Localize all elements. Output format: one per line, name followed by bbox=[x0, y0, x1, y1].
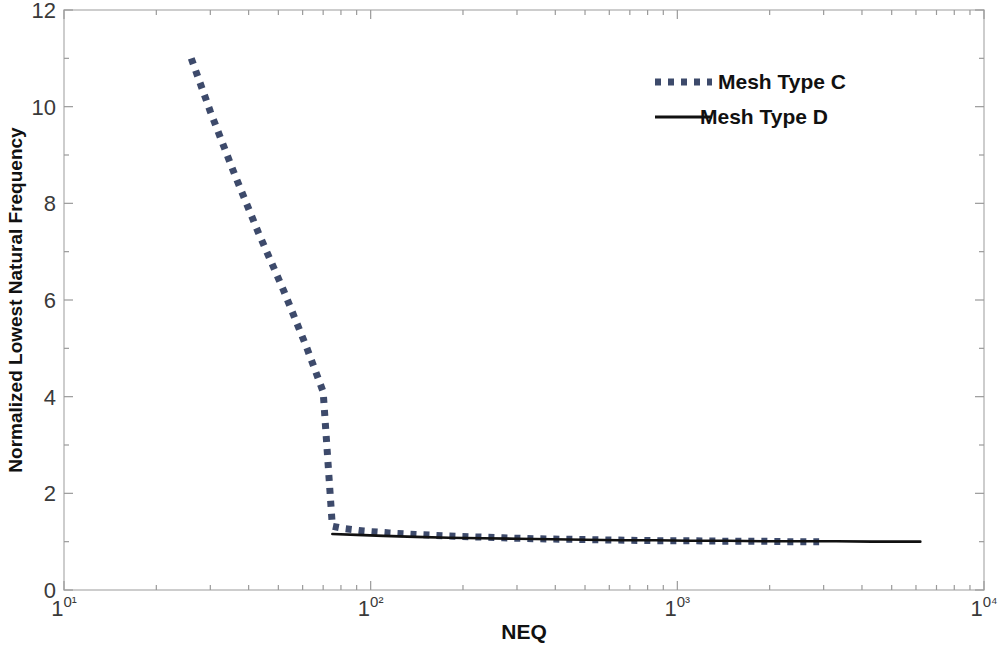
x-axis-title: NEQ bbox=[501, 620, 547, 643]
y-tick-label: 2 bbox=[44, 481, 56, 506]
y-tick-label: 8 bbox=[44, 191, 56, 216]
x-tick-label: 10³ bbox=[665, 593, 691, 621]
y-tick-label: 6 bbox=[44, 288, 56, 313]
x-tick-label: 10⁴ bbox=[970, 593, 997, 621]
x-axis-tick-labels: 10¹10²10³10⁴ bbox=[51, 593, 997, 621]
y-tick-label: 0 bbox=[44, 578, 56, 603]
series-line-mesh-type-d bbox=[332, 534, 920, 542]
y-tick-label: 12 bbox=[32, 0, 56, 23]
legend-entry-mesh-type-d[interactable]: Mesh Type D bbox=[655, 105, 828, 128]
chart-legend: Mesh Type C Mesh Type D bbox=[655, 70, 846, 128]
series-line-mesh-type-c bbox=[191, 58, 819, 541]
legend-label-mesh-type-d: Mesh Type D bbox=[700, 105, 828, 128]
legend-label-mesh-type-c: Mesh Type C bbox=[718, 70, 846, 93]
y-tick-label: 4 bbox=[44, 385, 56, 410]
chart-figure: 10¹10²10³10⁴ 024681012 NEQ Normalized Lo… bbox=[0, 0, 1006, 651]
y-axis-title: Normalized Lowest Natural Frequency bbox=[5, 127, 26, 473]
y-tick-label: 10 bbox=[32, 95, 56, 120]
legend-entry-mesh-type-c[interactable]: Mesh Type C bbox=[655, 70, 846, 93]
x-tick-label: 10² bbox=[358, 593, 384, 621]
y-axis-tick-labels: 024681012 bbox=[32, 0, 56, 603]
data-series-layer bbox=[191, 58, 920, 541]
chart-canvas: 10¹10²10³10⁴ 024681012 NEQ Normalized Lo… bbox=[0, 0, 1006, 651]
